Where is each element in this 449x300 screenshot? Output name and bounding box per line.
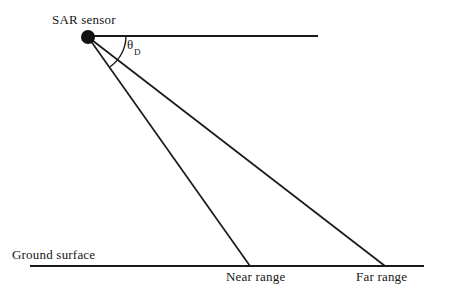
near-range-label: Near range <box>226 270 285 283</box>
theta-symbol: θ <box>127 37 133 52</box>
sar-geometry-diagram: SAR sensor Ground surface Near range Far… <box>0 0 449 300</box>
depression-angle-label: θD <box>127 38 140 55</box>
depression-angle-arc <box>110 36 126 67</box>
far-range-label: Far range <box>356 270 407 283</box>
theta-subscript: D <box>134 47 141 57</box>
far-range-beam-line <box>88 37 385 266</box>
near-range-beam-line <box>88 37 250 266</box>
sar-sensor-label: SAR sensor <box>52 13 116 26</box>
ground-surface-label: Ground surface <box>12 248 95 261</box>
sar-sensor-marker <box>81 30 95 44</box>
